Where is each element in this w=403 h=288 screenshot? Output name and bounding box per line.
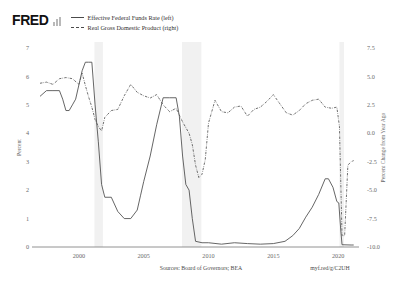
- y-left-tick-label: 7: [26, 44, 29, 51]
- permalink-label[interactable]: myf.red/g/C2UH: [310, 265, 350, 271]
- y-right-tick-label: -7.5: [367, 215, 377, 222]
- y-right-tick-label: 7.5: [367, 44, 375, 51]
- y-left-tick-label: 5: [26, 101, 29, 108]
- y-left-tick-label: 4: [26, 129, 29, 136]
- x-axis-ticks: 20002005201020152020: [73, 252, 345, 259]
- x-tick-label: 2005: [138, 252, 150, 259]
- y-left-tick-label: 0: [26, 243, 29, 250]
- y-right-tick-label: 2.5: [367, 101, 375, 108]
- y-left-tick-label: 3: [26, 158, 29, 165]
- chart-svg: 01234567 -10.0-7.5-5.0-2.50.02.55.07.5 2…: [0, 0, 403, 288]
- x-tick-label: 2010: [202, 252, 214, 259]
- fred-chart-container: FRED Effective Federal Funds Rate (left)…: [0, 0, 403, 288]
- y-axis-right-title: Percent Change from Year Ago: [380, 112, 386, 182]
- y-right-tick-label: 0.0: [367, 129, 375, 136]
- y-right-tick-label: -2.5: [367, 158, 377, 165]
- y-left-tick-label: 6: [26, 73, 29, 80]
- y-axis-left-ticks: 01234567: [26, 44, 29, 250]
- plot-area: 01234567 -10.0-7.5-5.0-2.50.02.55.07.5 2…: [0, 0, 403, 288]
- y-right-tick-label: -10.0: [367, 243, 380, 250]
- sources-label: Sources: Board of Governors; BEA: [160, 265, 243, 271]
- y-right-tick-label: 5.0: [367, 73, 375, 80]
- y-axis-left-title: Percent: [16, 139, 22, 156]
- x-tick-label: 2000: [73, 252, 85, 259]
- x-tick-label: 2020: [332, 252, 344, 259]
- x-tick-label: 2015: [267, 252, 279, 259]
- y-right-tick-label: -5.0: [367, 186, 377, 193]
- y-left-tick-label: 2: [26, 186, 29, 193]
- y-axis-right-ticks: -10.0-7.5-5.0-2.50.02.55.07.5: [367, 44, 380, 250]
- y-left-tick-label: 1: [26, 215, 29, 222]
